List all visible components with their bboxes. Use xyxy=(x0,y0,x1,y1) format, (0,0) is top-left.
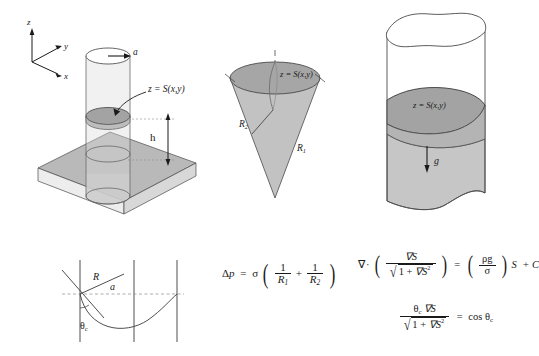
denominator-R1: R1 xyxy=(275,274,291,287)
left-paren-2: ( xyxy=(375,256,380,275)
equals-sign-3: = xyxy=(457,311,463,322)
panel-d-halfwidth-label: a xyxy=(110,282,115,292)
cone-body xyxy=(230,78,320,198)
panel-c-surface-label: z = S(x,y) xyxy=(413,101,446,110)
cylinder-top-rim xyxy=(386,13,485,46)
right-paren: ) xyxy=(330,265,336,284)
fraction-theta-gradS-over-root: θc∇S √1 + ∇S2 xyxy=(400,304,449,332)
panel-b-R1-label: R1 xyxy=(297,144,306,154)
plus-sign: + xyxy=(296,267,302,279)
plus-C-term: + C xyxy=(522,259,539,270)
right-paren-3: ) xyxy=(502,256,507,275)
radius-line xyxy=(80,274,124,294)
panel-irregular-cylinder: z = S(x,y) g xyxy=(345,8,530,236)
nabla-symbol: ∇ xyxy=(358,259,365,270)
panel-b-surface-label: z = S(x,y) xyxy=(280,70,313,79)
panel-contact-angle: R a θc xyxy=(58,248,208,348)
meniscus-surface xyxy=(86,108,130,130)
panel-c-svg xyxy=(345,8,530,236)
equals-sign-2: = xyxy=(454,259,460,270)
denominator-sqrt: √1 + ∇S2 xyxy=(386,264,435,279)
equals-sign: = xyxy=(240,267,246,279)
denominator-sqrt-2: √1 + ∇S2 xyxy=(400,317,449,332)
left-paren: ( xyxy=(263,265,269,284)
equation-young-laplace: Δp = σ ( 1 R1 + 1 R2 ) xyxy=(222,262,337,287)
axis-label-y: y xyxy=(63,41,68,51)
fraction-one-over-R2: 1 R2 xyxy=(307,262,323,287)
panel-c-gravity-label: g xyxy=(434,156,439,166)
right-paren-2: ) xyxy=(442,256,447,275)
panel-d-contact-angle-label: θc xyxy=(80,321,88,332)
denominator-R2: R2 xyxy=(307,274,323,287)
equation-governing-pde: ∇· ( ∇S √1 + ∇S2 ) = ( ρg σ ) S + C xyxy=(358,252,539,279)
fraction-one-over-R1: 1 R1 xyxy=(275,262,291,287)
panel-b-svg xyxy=(205,48,345,233)
dot-operator: · xyxy=(366,259,370,270)
axis-label-z: z xyxy=(26,17,31,27)
panel-capillary-tube-on-plate: z y x a z = S(x,y) h xyxy=(0,0,220,230)
panel-a-surface-label: z = S(x,y) xyxy=(148,85,185,95)
denominator-sigma: σ xyxy=(479,266,496,277)
S-symbol: S xyxy=(511,259,516,270)
fraction-rhog-over-sigma: ρg σ xyxy=(479,254,496,276)
panel-d-svg xyxy=(58,248,208,348)
panel-b-R2-label: R2 xyxy=(239,120,248,130)
panel-a-radius-label: a xyxy=(133,48,138,58)
coordinate-axes: z y x xyxy=(26,17,68,81)
left-paren-3: ( xyxy=(468,256,473,275)
panel-d-radius-label: R xyxy=(93,272,99,282)
meniscus-arc xyxy=(80,294,177,328)
axis-label-x: x xyxy=(63,71,68,81)
panel-a-height-label: h xyxy=(150,132,156,143)
fraction-gradS-over-root: ∇S √1 + ∇S2 xyxy=(386,252,435,279)
pressure-symbol: p xyxy=(229,267,235,279)
panel-a-svg: z y x xyxy=(0,0,220,230)
sigma-symbol: σ xyxy=(252,267,258,279)
theta-c-subscript: c xyxy=(490,316,493,323)
equation-boundary-condition: θc∇S √1 + ∇S2 = cos θc xyxy=(398,304,493,332)
panel-cone-meniscus: z = S(x,y) R2 R1 xyxy=(205,48,345,233)
cosine-operator: cos xyxy=(468,311,485,322)
